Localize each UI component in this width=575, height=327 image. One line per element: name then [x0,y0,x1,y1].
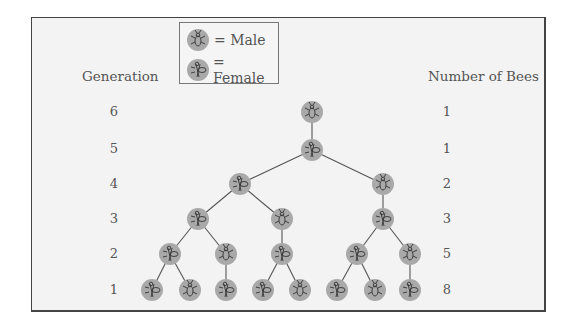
female-bee-icon [271,243,293,265]
male-bee-icon [372,173,394,195]
female-bee-icon [346,243,368,265]
male-bee-icon [215,243,237,265]
tree-edge [240,150,312,184]
male-bee-icon [179,279,201,301]
tree-nodes [141,101,421,301]
male-bee-icon [271,208,293,230]
male-bee-icon [364,279,386,301]
female-bee-icon [301,139,323,161]
female-bee-icon [187,208,209,230]
male-bee-icon [289,279,311,301]
female-bee-icon [252,279,274,301]
male-bee-icon [399,243,421,265]
family-tree [0,0,575,327]
female-bee-icon [141,279,163,301]
male-bee-icon [301,101,323,123]
tree-edge [312,150,383,184]
female-bee-icon [372,208,394,230]
female-bee-icon [215,279,237,301]
female-bee-icon [229,173,251,195]
female-bee-icon [326,279,348,301]
female-bee-icon [399,279,421,301]
female-bee-icon [159,243,181,265]
